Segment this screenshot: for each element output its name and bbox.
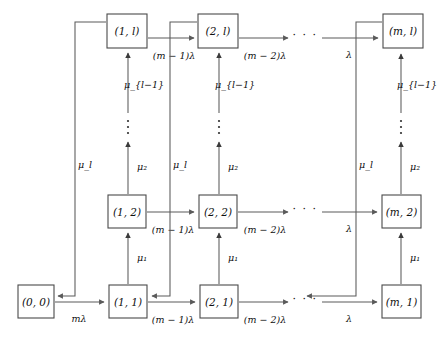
edge-label-mu1-colm: μ₁ [410,252,420,263]
edge-label-mul-colm: μ_l [359,159,373,171]
edge-label-lambda-middle: λ [345,223,352,234]
node-n2l-label: (2, l) [206,25,231,37]
edge-label-mlambda-bottom: mλ [71,313,86,324]
node-n11[interactable]: (1, 1) [109,285,147,318]
edge-mu1-column1: μ₁ [128,233,147,284]
edge-label-mu2-col1: μ₂ [137,161,147,172]
node-nml[interactable]: (m, l) [383,14,423,48]
node-nml-label: (m, l) [389,25,417,37]
edge-label-m2lambda-bottom: (m − 2)λ [244,314,287,325]
vdot-col1-a [127,132,129,134]
ellipsis-top: · · · [293,29,318,42]
node-nm1[interactable]: (m, 1) [382,285,421,318]
edge-feedback-nml-dots: μ_l [307,22,382,296]
state-transition-diagram: · · · mλ (m − 1)λ (m − 2)λ λ · · · (m − … [0,0,444,350]
vdot-col2-a [218,132,220,134]
edge-label-mul1-col1: μ_{l−1} [124,79,164,91]
edge-label-mu1-col1: μ₁ [137,252,147,263]
edge-label-mul1-colm: μ_{l−1} [397,79,437,91]
edge-label-m1lambda-middle: (m − 1)λ [152,224,195,235]
node-n1l-label: (1, l) [115,25,140,37]
node-n22-label: (2, 2) [204,206,232,218]
node-nm2[interactable]: (m, 2) [382,195,421,228]
edge-mu1-columnm: μ₁ [401,233,420,284]
edge-feedback-n2l-n11: μ_l [152,22,197,296]
ellipsis-middle: · · · [293,203,318,216]
edge-mu2-columnm: μ₂ μ_{l−1} [397,54,437,194]
edge-top-row: · · · (m − 1)λ (m − 2)λ λ [148,29,378,61]
edge-label-m1lambda-bottom: (m − 1)λ [152,314,195,325]
node-n12[interactable]: (1, 2) [108,195,146,228]
edge-mu1-column2: μ₁ [219,233,238,284]
edge-label-mul1-col2: μ_{l−1} [215,79,255,91]
vdot-col2-b [218,126,220,128]
node-nm1-label: (m, 1) [386,296,418,308]
ellipsis-bottom: · · · [293,293,318,306]
edge-label-mu2-col2: μ₂ [228,161,238,172]
node-n2l[interactable]: (2, l) [198,14,238,48]
edge-label-mu2-colm: μ₂ [410,161,420,172]
edge-mu2-column2: μ₂ μ_{l−1} [215,53,255,194]
edge-middle-row: · · · (m − 1)λ (m − 2)λ λ [147,203,377,235]
edge-label-mu1-col2: μ₁ [228,252,238,263]
node-nm2-label: (m, 2) [386,206,418,218]
node-n11-label: (1, 1) [114,296,142,308]
vdot-col1-b [127,126,129,128]
node-n22[interactable]: (2, 2) [199,195,237,228]
edge-label-mul-col2: μ_l [173,159,187,171]
edge-label-m2lambda-top: (m − 2)λ [244,50,287,61]
vdot-colm-c [400,120,402,122]
node-n21[interactable]: (2, 1) [200,285,238,318]
edge-label-mul-left: μ_l [78,159,92,171]
edge-feedback-n1l-n00: μ_l [58,22,106,296]
vdot-colm-b [400,126,402,128]
edge-label-m1lambda-top: (m − 1)λ [153,50,196,61]
node-n00[interactable]: (0, 0) [18,285,54,318]
vdot-col1-c [127,120,129,122]
edge-label-lambda-bottom: λ [345,313,352,324]
node-n00-label: (0, 0) [22,296,50,308]
diagram-canvas: · · · mλ (m − 1)λ (m − 2)λ λ · · · (m − … [0,0,444,350]
node-n21-label: (2, 1) [205,296,233,308]
vdot-colm-a [400,132,402,134]
edge-mu2-column1: μ₂ μ_{l−1} [124,53,164,194]
vdot-col2-c [218,120,220,122]
node-n12-label: (1, 2) [113,206,141,218]
node-n1l[interactable]: (1, l) [107,14,147,48]
edge-label-lambda-top: λ [345,49,352,60]
edge-label-m2lambda-middle: (m − 2)λ [244,224,287,235]
